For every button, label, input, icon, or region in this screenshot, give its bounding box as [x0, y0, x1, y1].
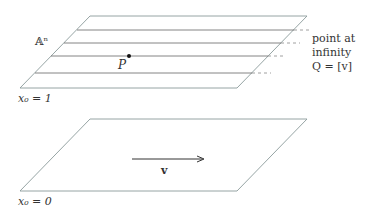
infinity-caption: point at infinity Q = [v]	[312, 32, 355, 74]
point-p	[127, 54, 131, 58]
lower-plane	[20, 119, 307, 191]
infinity-line-3: Q = [v]	[312, 60, 355, 74]
vector-label: v	[161, 164, 167, 177]
upper-plane	[20, 16, 312, 88]
infinity-line-1: point at	[312, 32, 355, 46]
point-p-label: P	[118, 58, 126, 72]
affine-space-label: 𝔸ⁿ	[35, 35, 48, 48]
lower-plane-equation: x₀ = 0	[18, 195, 52, 208]
upper-plane-equation: x₀ = 1	[18, 92, 52, 105]
infinity-line-2: infinity	[312, 46, 355, 60]
